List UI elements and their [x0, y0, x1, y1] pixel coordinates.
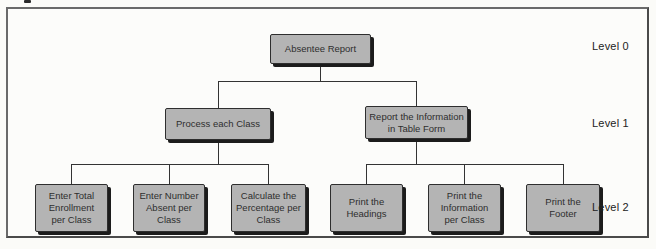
node-print-information: Print the Information per Class	[428, 184, 501, 232]
node-print-footer-label: Print the Footer	[545, 196, 580, 220]
node-calculate-percentage: Calculate the Percentage per Class	[231, 184, 306, 232]
chart-frame: Absentee Report Process each Class Repor…	[6, 7, 649, 238]
node-absentee-report: Absentee Report	[270, 34, 371, 64]
node-process-each-class: Process each Class	[165, 108, 271, 140]
node-enter-total-enrollment-label: Enter Total Enrollment per Class	[49, 190, 94, 226]
cropped-caption-artifact	[24, 0, 31, 3]
node-print-information-label: Print the Information per Class	[441, 190, 489, 226]
connector-drop-print-information	[464, 164, 465, 184]
connector-drop-report	[416, 81, 417, 106]
node-enter-total-enrollment: Enter Total Enrollment per Class	[35, 184, 108, 232]
connector-process-stem	[218, 140, 219, 164]
node-report-information: Report the Information in Table Form	[365, 106, 468, 139]
level-0-label: Level 0	[592, 40, 629, 52]
level-2-label: Level 2	[592, 201, 629, 213]
node-report-information-label: Report the Information in Table Form	[369, 111, 464, 135]
connector-drop-process	[218, 81, 219, 108]
level-1-label: Level 1	[592, 117, 629, 129]
connector-drop-enter-total	[71, 164, 72, 184]
node-process-each-class-label: Process each Class	[176, 118, 260, 130]
connector-level1-crossbar	[218, 81, 417, 82]
node-print-headings: Print the Headings	[330, 184, 403, 232]
connector-drop-print-footer	[563, 164, 564, 184]
connector-root-stem	[320, 64, 321, 81]
node-enter-number-absent: Enter Number Absent per Class	[133, 184, 205, 232]
node-print-headings-label: Print the Headings	[346, 196, 386, 220]
connector-process-crossbar	[71, 164, 269, 165]
connector-report-stem	[416, 139, 417, 164]
connector-drop-calc-percentage	[268, 164, 269, 184]
connector-drop-print-headings	[366, 164, 367, 184]
hierarchy-chart-figure: Absentee Report Process each Class Repor…	[0, 0, 656, 249]
node-enter-number-absent-label: Enter Number Absent per Class	[139, 190, 198, 226]
node-calculate-percentage-label: Calculate the Percentage per Class	[236, 190, 301, 226]
node-absentee-report-label: Absentee Report	[285, 43, 356, 55]
node-print-footer: Print the Footer	[526, 184, 600, 232]
connector-drop-enter-number	[169, 164, 170, 184]
